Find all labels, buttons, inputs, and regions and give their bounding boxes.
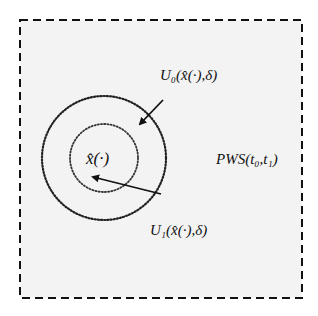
outer-region-label: U₀(x̂(·),δ) bbox=[160, 67, 217, 84]
diagram-canvas: x̂(·) U₀(x̂(·),δ) PWS(t₀,t₁) U₁(x̂(·),δ) bbox=[0, 0, 318, 316]
diagram-svg: x̂(·) U₀(x̂(·),δ) PWS(t₀,t₁) U₁(x̂(·),δ) bbox=[0, 0, 318, 316]
center-label: x̂(·) bbox=[85, 149, 109, 168]
inner-region-label: U₁(x̂(·),δ) bbox=[150, 222, 207, 239]
space-label: PWS(t₀,t₁) bbox=[215, 151, 278, 168]
